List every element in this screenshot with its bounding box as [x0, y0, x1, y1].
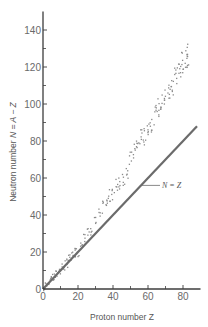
nucleus-point	[148, 123, 149, 124]
y-tick-label: 140	[24, 25, 41, 36]
nucleus-point	[172, 90, 173, 91]
nucleus-point	[143, 141, 144, 142]
nucleus-point	[98, 208, 99, 209]
nucleus-point	[174, 68, 175, 69]
nucleus-point	[129, 164, 130, 165]
nucleus-point	[64, 269, 65, 270]
nucleus-point	[180, 66, 181, 67]
nucleus-point	[176, 83, 177, 84]
nucleus-point	[175, 69, 176, 70]
nucleus-point	[140, 136, 141, 137]
nucleus-point	[100, 212, 101, 213]
nucleus-point	[141, 129, 142, 130]
nucleus-point	[87, 229, 88, 230]
nucleus-point	[141, 132, 142, 133]
nucleus-point	[89, 231, 90, 232]
nucleus-point	[160, 106, 161, 107]
nucleus-point	[157, 98, 158, 99]
nucleus-point	[99, 215, 100, 216]
x-tick-label: 80	[177, 291, 189, 302]
nucleus-point	[151, 130, 152, 131]
nucleus-point	[71, 252, 72, 253]
nucleus-point	[61, 263, 62, 264]
nucleus-point	[68, 255, 69, 256]
nucleus-point	[80, 246, 81, 247]
nucleus-point	[155, 106, 156, 107]
nucleus-point	[168, 87, 169, 88]
nucleus-point	[84, 241, 85, 242]
nucleus-point	[54, 273, 55, 274]
nucleus-point	[185, 67, 186, 68]
nucleus-point	[154, 111, 155, 112]
nucleus-point	[143, 139, 144, 140]
nucleus-point	[136, 140, 137, 141]
x-tick-label: 20	[72, 291, 84, 302]
nucleus-point	[141, 139, 142, 140]
nucleus-point	[115, 186, 116, 187]
nucleus-point	[182, 72, 183, 73]
nucleus-point	[158, 114, 159, 115]
nucleus-point	[178, 73, 179, 74]
nucleus-point	[102, 213, 103, 214]
nucleus-point	[155, 110, 156, 111]
nucleus-point	[147, 129, 148, 130]
nucleus-point	[150, 126, 151, 127]
n-equals-z-line	[43, 126, 197, 289]
nucleus-point	[187, 65, 188, 66]
y-tick-label: 120	[24, 62, 41, 73]
nucleus-point	[153, 124, 154, 125]
nucleus-point	[158, 116, 159, 117]
nucleus-point	[134, 144, 135, 145]
nucleus-point	[145, 140, 146, 141]
nucleus-point	[107, 203, 108, 204]
nucleus-point	[109, 189, 110, 190]
nucleus-point	[106, 200, 107, 201]
nucleus-point	[122, 174, 123, 175]
nucleus-point	[134, 148, 135, 149]
nucleus-point	[67, 267, 68, 268]
nucleus-point	[69, 257, 70, 258]
nucleus-point	[84, 238, 85, 239]
x-axis-ticks: 020406080	[40, 285, 189, 302]
nucleus-point	[112, 189, 113, 190]
nucleus-point	[102, 201, 103, 202]
nucleus-point	[95, 222, 96, 223]
nucleus-point	[157, 111, 158, 112]
nucleus-point	[148, 134, 149, 135]
y-axis-title-prefix: Neutron number	[8, 138, 18, 202]
nucleus-point	[108, 196, 109, 197]
y-axis-title-formula: N = A − Z	[8, 101, 18, 138]
x-axis-title: Proton number Z	[90, 312, 154, 322]
nucleus-point	[187, 44, 188, 45]
nucleus-point	[111, 194, 112, 195]
nucleus-point	[95, 217, 96, 218]
nucleus-point	[56, 271, 57, 272]
nucleus-point	[112, 199, 113, 200]
nucleus-point	[108, 198, 109, 199]
nucleus-point	[91, 231, 92, 232]
nucleus-point	[123, 177, 124, 178]
nucleus-point	[151, 119, 152, 120]
y-tick-label: 20	[30, 247, 42, 258]
y-axis-title: Neutron number N = A − Z	[8, 101, 18, 201]
nucleus-point	[173, 94, 174, 95]
nucleus-point	[169, 94, 170, 95]
y-tick-label: 0	[35, 284, 41, 295]
nucleus-point	[171, 86, 172, 87]
nucleus-point	[182, 52, 183, 53]
nucleus-point	[178, 63, 179, 64]
nucleus-point	[66, 259, 67, 260]
nucleus-point	[186, 66, 187, 67]
nucleus-point	[77, 256, 78, 257]
nucleus-point	[148, 131, 149, 132]
nucleus-point	[167, 92, 168, 93]
nucleus-point	[165, 96, 166, 97]
nucleus-point	[143, 128, 144, 129]
nucleus-point	[182, 60, 183, 61]
nucleus-point	[180, 72, 181, 73]
nucleus-point	[118, 177, 119, 178]
nucleus-point	[176, 78, 177, 79]
nucleus-point	[161, 94, 162, 95]
nucleus-point	[102, 203, 103, 204]
nucleus-point	[98, 212, 99, 213]
